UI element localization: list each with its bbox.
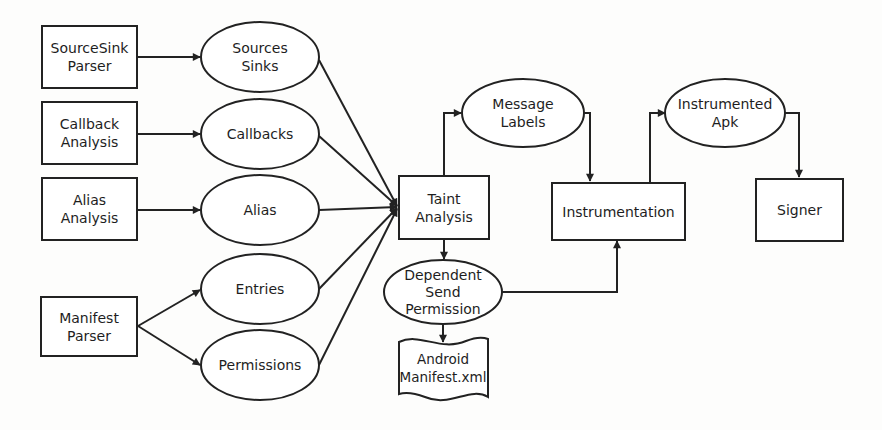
signer-label: Signer [777, 201, 822, 219]
alias-analysis-label: Alias Analysis [61, 191, 119, 227]
diagram-canvas: SourceSink Parser Callback Analysis Alia… [0, 0, 882, 430]
entries-node: Entries [201, 254, 319, 324]
signer-node: Signer [755, 178, 844, 242]
taint-analysis-node: Taint Analysis [398, 175, 490, 240]
instrumented-apk-label: Instrumented Apk [678, 95, 773, 131]
callbacks-node: Callbacks [201, 99, 319, 169]
manifest-parser-node: Manifest Parser [40, 296, 138, 357]
android-manifest-label: Android Manifest.xml [400, 350, 487, 386]
dependent-send-permission-label: Dependent Send Permission [404, 267, 482, 318]
sources-sinks-label: Sources Sinks [232, 39, 287, 75]
callbacks-label: Callbacks [227, 125, 294, 143]
message-labels-node: Message Labels [462, 79, 584, 147]
instrumentation-node: Instrumentation [551, 182, 686, 241]
taint-analysis-label: Taint Analysis [415, 190, 473, 226]
callback-analysis-label: Callback Analysis [60, 115, 119, 151]
permissions-label: Permissions [219, 356, 302, 374]
sourcesink-parser-node: SourceSink Parser [41, 25, 138, 89]
permissions-node: Permissions [201, 330, 319, 400]
callback-analysis-node: Callback Analysis [41, 101, 138, 165]
alias-node: Alias [201, 175, 319, 245]
instrumented-apk-node: Instrumented Apk [665, 79, 785, 147]
sources-sinks-node: Sources Sinks [201, 22, 319, 92]
dependent-send-permission-node: Dependent Send Permission [384, 260, 502, 324]
message-labels-label: Message Labels [492, 95, 553, 131]
manifest-parser-label: Manifest Parser [59, 309, 119, 345]
alias-analysis-node: Alias Analysis [41, 177, 138, 241]
android-manifest-node: Android Manifest.xml [396, 340, 490, 396]
entries-label: Entries [236, 280, 285, 298]
sourcesink-parser-label: SourceSink Parser [51, 39, 129, 75]
alias-label: Alias [243, 201, 276, 219]
instrumentation-label: Instrumentation [562, 203, 674, 221]
